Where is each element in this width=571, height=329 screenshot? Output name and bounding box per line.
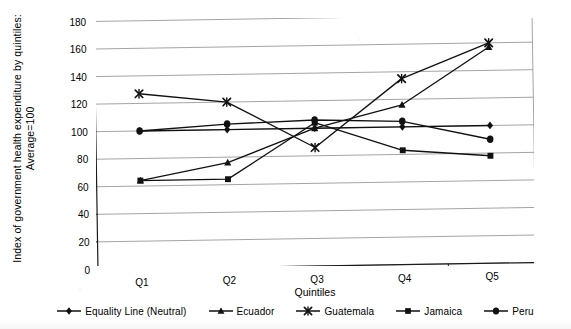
y-axis-tick-label: 20 [64, 236, 90, 247]
y-axis-tick-label: 120 [61, 99, 87, 110]
x-axis-tick-label-q2: Q2 [209, 275, 249, 286]
legend-marker-circle-icon [483, 305, 509, 317]
y-axis-title-line2: Average=100 [23, 14, 36, 263]
legend-item-jamaica[interactable]: Jamaica [395, 305, 462, 317]
series-guatemala [135, 39, 492, 152]
y-axis-title-line1: Index of government health expenditure b… [11, 14, 23, 263]
axis-frame [96, 18, 534, 266]
x-axis-tick-label-q5: Q5 [472, 271, 512, 282]
y-axis-title: Index of government health expenditure b… [0, 0, 46, 276]
y-axis-tick-label: 60 [63, 181, 89, 192]
y-axis-tick-label: 180 [60, 16, 86, 27]
y-axis-tick-label: 80 [62, 154, 88, 165]
plot-area [96, 18, 534, 266]
legend-label: Ecuador [237, 306, 275, 317]
chart-canvas [96, 18, 534, 266]
chart-legend: Equality Line (Neutral)EcuadorGuatemalaJ… [60, 300, 530, 322]
x-axis-tick-label-q4: Q4 [385, 273, 425, 284]
legend-item-guatemala[interactable]: Guatemala [295, 305, 374, 317]
legend-marker-x-icon [295, 305, 321, 317]
y-axis-tick-label: 140 [61, 71, 87, 82]
legend-label: Equality Line (Neutral) [85, 306, 186, 317]
legend-item-peru[interactable]: Peru [483, 305, 534, 317]
y-axis-tick-label: 40 [63, 209, 89, 220]
legend-item-equality-line-neutral[interactable]: Equality Line (Neutral) [56, 305, 186, 317]
series-ecuador [137, 43, 492, 183]
y-axis-tick-label: 100 [62, 126, 88, 137]
legend-label: Peru [512, 306, 534, 317]
y-axis-tick-label: 160 [61, 44, 87, 55]
legend-marker-square-icon [395, 305, 421, 317]
legend-marker-triangle-icon [208, 305, 234, 317]
x-axis-title: Quintiles [96, 286, 534, 298]
legend-label: Guatemala [324, 306, 374, 317]
legend-marker-diamond-icon [56, 305, 82, 317]
y-axis-tick-label: 0 [64, 264, 90, 275]
gridlines [96, 18, 534, 266]
legend-label: Jamaica [424, 306, 462, 317]
x-axis-tick-label-q3: Q3 [297, 274, 337, 285]
chart-figure: Index of government health expenditure b… [0, 0, 571, 329]
legend-item-ecuador[interactable]: Ecuador [208, 305, 275, 317]
